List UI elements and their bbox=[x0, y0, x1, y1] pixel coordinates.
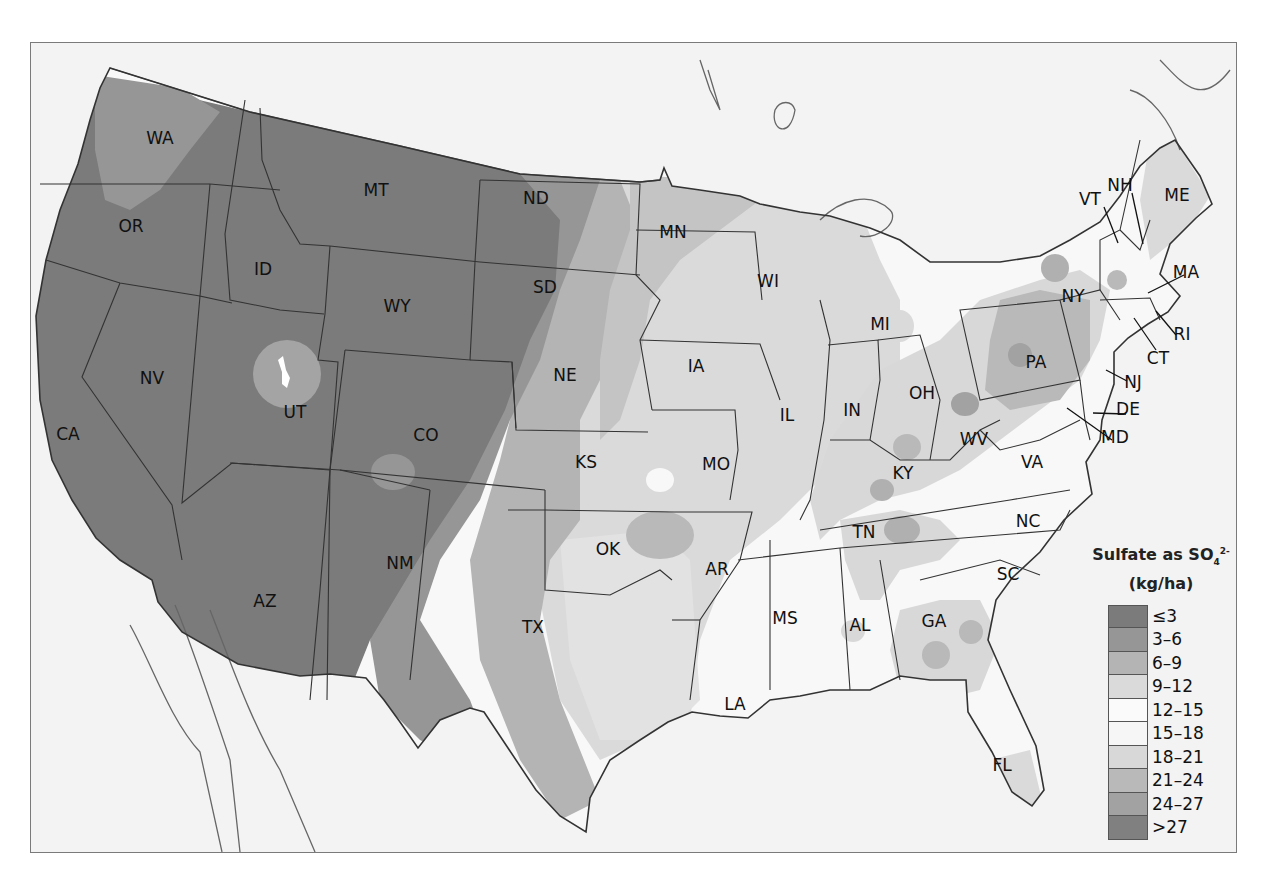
legend-class: 9–12 bbox=[1108, 675, 1228, 699]
lake-nipigon-outline bbox=[774, 103, 795, 129]
state-label-nh: NH bbox=[1107, 175, 1133, 195]
state-label-nc: NC bbox=[1016, 511, 1041, 531]
zone-3-6-colorado bbox=[371, 454, 415, 490]
state-label-wv: WV bbox=[960, 429, 989, 449]
state-label-ma: MA bbox=[1173, 262, 1200, 282]
legend-class: >27 bbox=[1108, 816, 1228, 840]
state-label-az: AZ bbox=[253, 591, 276, 611]
state-label-oh: OH bbox=[909, 383, 935, 403]
legend-class: 6–9 bbox=[1108, 652, 1228, 676]
state-label-ut: UT bbox=[284, 402, 307, 422]
state-label-mo: MO bbox=[702, 454, 730, 474]
legend-swatch bbox=[1108, 605, 1148, 629]
state-label-nj: NJ bbox=[1124, 372, 1142, 392]
legend-label: 12–15 bbox=[1152, 700, 1204, 720]
state-label-mi: MI bbox=[870, 314, 890, 334]
state-label-ca: CA bbox=[56, 424, 80, 444]
legend-class: 3–6 bbox=[1108, 628, 1228, 652]
state-label-la: LA bbox=[724, 694, 746, 714]
legend-title-subscript: 4 bbox=[1213, 557, 1219, 567]
state-label-nd: ND bbox=[523, 188, 549, 208]
legend-swatch bbox=[1108, 628, 1148, 652]
state-label-ks: KS bbox=[575, 452, 597, 472]
legend-title-superscript: 2- bbox=[1220, 546, 1230, 556]
legend-title-prefix: Sulfate as SO bbox=[1092, 545, 1213, 564]
legend-label: 18–21 bbox=[1152, 747, 1204, 767]
canada-lake-outline bbox=[700, 60, 720, 110]
legend-class: 24–27 bbox=[1108, 793, 1228, 817]
state-label-fl: FL bbox=[992, 755, 1012, 775]
state-label-id: ID bbox=[254, 259, 272, 279]
zone-3-6-oklahoma bbox=[626, 511, 694, 559]
state-label-sc: SC bbox=[997, 564, 1020, 584]
state-label-ms: MS bbox=[772, 608, 797, 628]
legend-label: 21–24 bbox=[1152, 770, 1204, 790]
state-label-ny: NY bbox=[1061, 286, 1085, 306]
legend-label: 24–27 bbox=[1152, 794, 1204, 814]
legend-swatch bbox=[1108, 699, 1148, 723]
legend-swatch bbox=[1108, 769, 1148, 793]
zone-21-24-indiana bbox=[893, 434, 921, 460]
sulfate-deposition-map: WAORCANVIDMTWYUTCOAZNMNDSDNEKSOKTXMNIAMO… bbox=[0, 0, 1265, 873]
legend-swatch bbox=[1108, 675, 1148, 699]
zone-21-24-georgia-east bbox=[959, 620, 983, 644]
state-label-tx: TX bbox=[521, 617, 544, 637]
legend-class: 21–24 bbox=[1108, 769, 1228, 793]
state-label-ri: RI bbox=[1174, 324, 1191, 344]
legend-label: 15–18 bbox=[1152, 723, 1204, 743]
zone-21-24-tennessee bbox=[884, 516, 920, 544]
zone-24-27-ohio bbox=[951, 392, 979, 416]
state-label-nv: NV bbox=[140, 368, 165, 388]
zone-21-24-ny-east bbox=[1107, 270, 1127, 290]
state-label-mt: MT bbox=[363, 180, 389, 200]
state-label-or: OR bbox=[118, 216, 143, 236]
zone-21-24-illinois-south bbox=[870, 479, 894, 501]
state-label-mn: MN bbox=[659, 222, 686, 242]
state-label-al: AL bbox=[849, 615, 871, 635]
legend-label: >27 bbox=[1152, 817, 1188, 837]
legend-class: 18–21 bbox=[1108, 746, 1228, 770]
state-label-tn: TN bbox=[851, 522, 875, 542]
zone-12-15-kansas bbox=[646, 468, 674, 492]
state-label-ia: IA bbox=[688, 356, 705, 376]
baja-west-coast bbox=[130, 625, 222, 852]
legend-label: 3–6 bbox=[1152, 629, 1182, 649]
state-label-wa: WA bbox=[146, 128, 174, 148]
state-label-ar: AR bbox=[705, 559, 729, 579]
legend-label: 6–9 bbox=[1152, 653, 1182, 673]
legend-class: 15–18 bbox=[1108, 722, 1228, 746]
legend-label: ≤3 bbox=[1152, 606, 1177, 626]
legend-label: 9–12 bbox=[1152, 676, 1193, 696]
state-label-in: IN bbox=[843, 400, 861, 420]
legend-title: Sulfate as SO42- (kg/ha) bbox=[1086, 540, 1236, 595]
legend: Sulfate as SO42- (kg/ha) ≤33–66–99–1212–… bbox=[1086, 540, 1236, 845]
state-label-ct: CT bbox=[1147, 348, 1170, 368]
state-label-wi: WI bbox=[757, 271, 779, 291]
legend-swatch bbox=[1108, 746, 1148, 770]
state-label-wy: WY bbox=[383, 296, 411, 316]
state-label-ne: NE bbox=[553, 365, 576, 385]
state-label-va: VA bbox=[1021, 452, 1044, 472]
state-label-de: DE bbox=[1116, 399, 1140, 419]
state-label-ok: OK bbox=[596, 539, 621, 559]
state-label-vt: VT bbox=[1079, 189, 1102, 209]
legend-class: 12–15 bbox=[1108, 699, 1228, 723]
state-label-ky: KY bbox=[893, 463, 915, 483]
legend-swatch bbox=[1108, 816, 1148, 840]
state-label-ga: GA bbox=[922, 611, 947, 631]
legend-swatch bbox=[1108, 722, 1148, 746]
state-label-nm: NM bbox=[386, 553, 413, 573]
state-label-pa: PA bbox=[1026, 352, 1047, 372]
st-lawrence-outline bbox=[1160, 60, 1230, 90]
legend-classes: ≤33–66–99–1212–1515–1818–2121–2424–27>27 bbox=[1086, 605, 1236, 845]
state-label-me: ME bbox=[1164, 185, 1189, 205]
state-label-co: CO bbox=[413, 425, 438, 445]
legend-title-units: (kg/ha) bbox=[1129, 574, 1194, 593]
legend-swatch bbox=[1108, 652, 1148, 676]
zone-21-24-georgia-west bbox=[922, 641, 950, 669]
state-label-md: MD bbox=[1101, 427, 1129, 447]
map-layers bbox=[0, 0, 1265, 873]
state-label-il: IL bbox=[780, 405, 795, 425]
legend-swatch bbox=[1108, 793, 1148, 817]
state-label-sd: SD bbox=[533, 277, 557, 297]
